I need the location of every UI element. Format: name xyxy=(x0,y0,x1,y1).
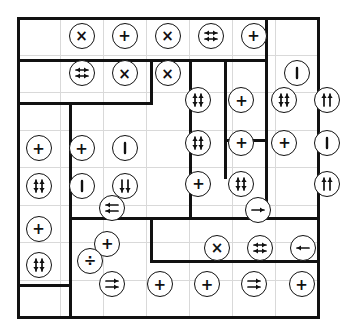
double-arrow-horizontal-icon xyxy=(202,27,220,45)
gridline-vertical xyxy=(275,17,276,319)
wall-outer-top xyxy=(17,17,320,20)
cell-r1c4[interactable]: × xyxy=(155,23,181,49)
plus-icon: + xyxy=(235,91,248,110)
bar-icon xyxy=(288,64,306,82)
wall-mid-vert-a xyxy=(150,59,153,105)
cell-r4c5[interactable]: + xyxy=(228,130,254,156)
wall-outer-right xyxy=(317,17,320,319)
cell-r3c5[interactable] xyxy=(185,87,211,113)
cell-r2c2[interactable] xyxy=(69,60,95,86)
double-arrow-horizontal-icon xyxy=(73,64,91,82)
plus-icon: + xyxy=(75,139,88,158)
cell-r4c3[interactable] xyxy=(112,135,138,161)
bar-icon xyxy=(318,134,336,152)
double-arrow-up-icon xyxy=(318,91,336,109)
cell-r5c4[interactable]: + xyxy=(185,171,211,197)
cell-r7c2[interactable]: ÷ xyxy=(77,248,103,274)
cell-r4c1[interactable]: + xyxy=(26,135,52,161)
cell-r3c8[interactable] xyxy=(314,87,340,113)
gridline-vertical xyxy=(146,17,147,319)
cell-r5c7[interactable] xyxy=(314,171,340,197)
gridline-horizontal xyxy=(17,55,320,56)
arrow-left-icon xyxy=(294,239,312,257)
arrow-right-icon xyxy=(249,201,267,219)
cell-r2c3[interactable]: × xyxy=(112,60,138,86)
cell-r1c2[interactable]: × xyxy=(69,23,95,49)
double-arrow-vertical-icon xyxy=(189,134,207,152)
wall-block-top xyxy=(69,102,151,105)
double-arrow-vertical-icon xyxy=(189,91,207,109)
plus-icon: + xyxy=(201,275,214,294)
double-arrow-down-icon xyxy=(116,177,134,195)
cell-r1c5[interactable] xyxy=(198,23,224,49)
gridline-vertical xyxy=(232,17,233,319)
gridline-vertical xyxy=(60,17,61,319)
cell-r8c3[interactable]: + xyxy=(147,271,173,297)
wall-lower-vert xyxy=(150,217,153,262)
cell-r6c5[interactable] xyxy=(245,197,271,223)
cell-r2c7[interactable] xyxy=(284,60,310,86)
cell-r5c1[interactable] xyxy=(26,173,52,199)
wall-lower-h2 xyxy=(151,217,317,220)
plus-icon: + xyxy=(118,26,131,45)
times-icon: × xyxy=(161,26,174,45)
double-arrow-vertical-icon xyxy=(275,91,293,109)
plus-icon: + xyxy=(32,219,45,238)
puzzle-board: ×+×+××++++++++÷×+++ xyxy=(17,17,320,319)
plus-icon: + xyxy=(247,26,260,45)
gridline-horizontal xyxy=(17,205,320,206)
double-arrow-right-icon xyxy=(245,275,263,293)
cell-r2c4[interactable]: × xyxy=(155,60,181,86)
plus-icon: + xyxy=(101,234,114,253)
cell-r7c5[interactable]: × xyxy=(204,235,230,261)
times-icon: × xyxy=(211,238,224,257)
wall-bottom-strip xyxy=(17,284,69,287)
cell-r3c6[interactable]: + xyxy=(228,87,254,113)
plus-icon: + xyxy=(153,275,166,294)
wall-outer-bottom xyxy=(17,316,320,319)
wall-mid-vert-c xyxy=(224,59,227,179)
gridline-horizontal xyxy=(17,130,320,131)
plus-icon: + xyxy=(235,133,248,152)
cell-r1c3[interactable]: + xyxy=(112,23,138,49)
plus-icon: + xyxy=(295,275,308,294)
cell-r4c2[interactable]: + xyxy=(69,135,95,161)
wall-left-col-vert xyxy=(69,102,72,317)
times-icon: × xyxy=(161,64,174,83)
double-arrow-vertical-icon xyxy=(30,256,48,274)
double-arrow-left-icon xyxy=(103,199,121,217)
bar-icon xyxy=(73,177,91,195)
cell-r6c1[interactable]: + xyxy=(26,216,52,242)
double-arrow-vertical-icon xyxy=(232,175,250,193)
wall-outer-left xyxy=(17,17,20,319)
cell-r5c2b[interactable] xyxy=(99,195,125,221)
cell-r3c7[interactable] xyxy=(271,87,297,113)
cell-r8c6[interactable]: + xyxy=(289,271,315,297)
cell-r4c6[interactable]: + xyxy=(271,130,297,156)
wall-lower-h3 xyxy=(150,260,317,263)
gridline-horizontal xyxy=(17,167,320,168)
double-arrow-horizontal-icon xyxy=(251,239,269,257)
cell-r4c7[interactable] xyxy=(314,130,340,156)
gridline-horizontal xyxy=(17,242,320,243)
cell-r4c4[interactable] xyxy=(185,130,211,156)
plus-icon: + xyxy=(278,133,291,152)
double-arrow-vertical-icon xyxy=(30,177,48,195)
wall-row1-bottom xyxy=(17,59,267,62)
cell-r7c7[interactable] xyxy=(290,235,316,261)
plus-icon: + xyxy=(32,139,45,158)
cell-r8c2[interactable] xyxy=(99,271,125,297)
cell-r5c2[interactable] xyxy=(69,173,95,199)
cell-r1c6[interactable]: + xyxy=(241,23,267,49)
plus-icon: + xyxy=(192,174,205,193)
double-arrow-up-icon xyxy=(318,175,336,193)
cell-r7c1[interactable] xyxy=(26,252,52,278)
bar-icon xyxy=(116,139,134,157)
cell-r8c4[interactable]: + xyxy=(194,271,220,297)
cell-r8c5[interactable] xyxy=(241,271,267,297)
double-arrow-right-icon xyxy=(103,275,121,293)
cell-r7c6[interactable] xyxy=(247,235,273,261)
cell-r5c5[interactable] xyxy=(228,171,254,197)
times-icon: × xyxy=(118,64,131,83)
times-icon: × xyxy=(75,26,88,45)
